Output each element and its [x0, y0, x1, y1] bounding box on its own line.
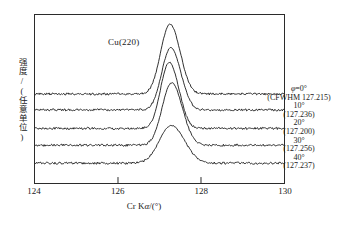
- x-tick-label-130: 130: [278, 186, 292, 196]
- curve-annotations: φ=0°(CFWHM 127.215)10°(127.236)20°(127.2…: [252, 85, 346, 171]
- y-axis-title: 强度/(任意单位): [11, 58, 27, 142]
- x-axis-title: Cr Kα/(°): [0, 201, 346, 211]
- curve-0: [35, 24, 284, 95]
- x-tick-label-124: 124: [27, 186, 41, 196]
- peak-label-cu220: Cu(220): [108, 37, 139, 47]
- x-tick-label-126: 126: [111, 186, 125, 196]
- x-axis-title-prefix: Cr K: [127, 201, 145, 211]
- xrd-chart-figure: 强度/(任意单位) Cu(220) 124 126 128 130 Cr Kα/…: [0, 0, 346, 227]
- phi-symbol: φ: [291, 84, 295, 93]
- diffraction-curves: [35, 15, 284, 183]
- x-axis-title-suffix: /(°): [149, 201, 161, 211]
- x-tick-label-128: 128: [195, 186, 209, 196]
- plot-area: [34, 14, 285, 184]
- annotation-value-4: (127.237): [252, 162, 346, 171]
